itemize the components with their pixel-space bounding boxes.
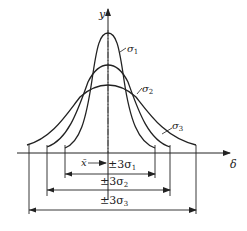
dim-label-sigma3: ±3σ3 [100,194,128,208]
dim-label-sigma2: ±3σ2 [100,175,128,189]
curve-sigma3 [27,85,196,145]
y-axis-label: y [98,8,106,21]
mean-label: x̄ [81,157,87,168]
label-sigma3: σ3 [172,120,183,133]
label-sigma2: σ2 [142,83,153,96]
label-sigma1: σ1 [127,43,138,56]
x-axis-label: δ [230,158,237,171]
normal-distribution-diagram: δ y σ1 σ2 σ3 x̄ ±3σ1 ±3σ2 ±3σ3 [0,0,247,231]
dim-label-sigma1: ±3σ1 [108,158,136,172]
